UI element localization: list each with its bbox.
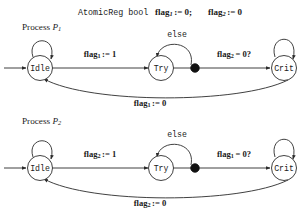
process-1-title: Process P1 (22, 22, 61, 33)
branch-dot-2 (191, 164, 200, 173)
state-crit-2-label: Crit (274, 164, 294, 173)
state-idle-1[interactable]: Idle (28, 56, 53, 81)
process-2-title: Process P2 (22, 116, 62, 127)
state-idle-2-label: Idle (30, 164, 50, 173)
edge-crit-idle-2 (44, 179, 288, 198)
declaration-var2: flag2:= 0 (208, 7, 243, 18)
edge-label-set-flag-1: flag1:= 1 (84, 49, 117, 60)
state-crit-1[interactable]: Crit (272, 56, 297, 81)
diagram-canvas: AtomicReg bool flag1:= 0; flag2:= 0 Proc… (0, 0, 308, 220)
else-label-2: else (167, 130, 187, 139)
state-try-2-label: Try (154, 164, 169, 173)
branch-dot-1 (191, 64, 200, 73)
declaration-line: AtomicReg bool flag1:= 0; flag2:= 0 (78, 7, 243, 18)
automata-figure: AtomicReg bool flag1:= 0; flag2:= 0 Proc… (0, 0, 308, 220)
else-label-1: else (167, 30, 187, 39)
edge-label-release-2: flag2:= 0 (134, 198, 167, 209)
edge-label-release-1: flag1:= 0 (134, 98, 167, 109)
process-block-1: Process P1 flag1:= 1 else flag2= 0? flag… (4, 22, 297, 109)
state-idle-2[interactable]: Idle (28, 156, 53, 181)
process-block-2: Process P2 flag2:= 1 else flag1= 0? flag… (4, 116, 297, 209)
state-try-1-label: Try (154, 64, 169, 73)
state-try-2[interactable]: Try (149, 156, 174, 181)
state-crit-1-label: Crit (274, 64, 294, 73)
state-idle-1-label: Idle (30, 64, 50, 73)
edge-label-guard-1: flag2= 0? (217, 49, 251, 60)
declaration-var1: flag1:= 0; (155, 7, 192, 18)
state-crit-2[interactable]: Crit (272, 156, 297, 181)
edge-label-guard-2: flag1= 0? (217, 149, 251, 160)
edge-label-set-flag-2: flag2:= 1 (84, 149, 117, 160)
edge-crit-idle-1 (44, 79, 288, 98)
declaration-keyword: AtomicReg bool (78, 8, 148, 18)
state-try-1[interactable]: Try (149, 56, 174, 81)
